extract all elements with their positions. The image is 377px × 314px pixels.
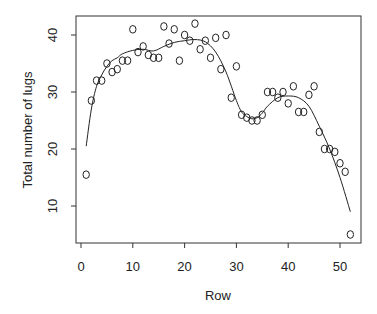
y-axis-label: Total number of lugs (20, 71, 35, 189)
x-tick-label: 10 (126, 259, 140, 274)
x-tick-label: 0 (77, 259, 84, 274)
x-axis-label: Row (205, 288, 232, 303)
x-tick-label: 50 (333, 259, 347, 274)
y-tick-label: 40 (45, 28, 60, 42)
y-tick-label: 30 (45, 85, 60, 99)
x-tick-label: 40 (281, 259, 295, 274)
x-tick-label: 20 (177, 259, 191, 274)
y-tick-label: 10 (45, 199, 60, 213)
scatter-plot: 01020304050 10203040 Row Total number of… (0, 0, 377, 314)
y-tick-label: 20 (45, 142, 60, 156)
x-tick-label: 30 (229, 259, 243, 274)
